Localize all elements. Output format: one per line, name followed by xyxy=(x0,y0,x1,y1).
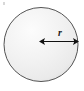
radius-label: r xyxy=(58,27,62,38)
scan-speck xyxy=(3,2,5,5)
figure-container: r xyxy=(0,0,84,91)
circle-shape xyxy=(4,8,78,82)
circle-radius-diagram: r xyxy=(0,0,84,91)
